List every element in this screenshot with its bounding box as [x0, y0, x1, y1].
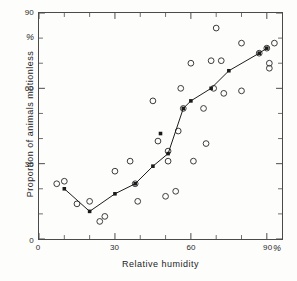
plot-frame: [38, 12, 283, 240]
x-tick-label-90: 90: [263, 243, 272, 252]
x-tick-label-60: 60: [186, 243, 195, 252]
y-axis-title: Proportion of animals motionless: [25, 39, 35, 209]
data-series-2: [159, 132, 163, 136]
axis-ticks: [39, 13, 282, 239]
scatter-plot-figure: 0 30 60 90 % 0 30 60 90 % Relative humid…: [0, 0, 297, 281]
y-tick-label-0: 0: [10, 236, 34, 245]
plot-canvas: [39, 13, 282, 239]
data-series-0: [54, 25, 277, 224]
y-tick-label-90: 90: [10, 8, 34, 17]
x-axis-percent-symbol: %: [273, 243, 281, 253]
x-axis-title: Relative humidity: [38, 259, 283, 269]
x-tick-label-30: 30: [110, 243, 119, 252]
x-tick-label-0: 0: [36, 243, 41, 252]
data-series-1: [63, 46, 269, 213]
